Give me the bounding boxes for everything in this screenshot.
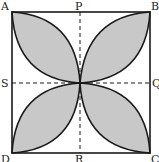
label-P: P [75, 0, 83, 13]
label-R: R [75, 153, 84, 162]
label-A: A [0, 0, 10, 13]
leaf-top-right [80, 12, 150, 83]
leaf-bottom-right [80, 83, 150, 153]
label-Q: Q [152, 77, 159, 90]
geometry-diagram: A P B S Q D R C [0, 0, 159, 162]
leaf-top-left [12, 12, 80, 83]
leaf-bottom-left [12, 83, 80, 153]
label-D: D [1, 153, 10, 162]
label-B: B [151, 0, 159, 13]
label-S: S [1, 77, 9, 90]
shaded-leaves [12, 12, 150, 153]
label-C: C [151, 153, 159, 162]
